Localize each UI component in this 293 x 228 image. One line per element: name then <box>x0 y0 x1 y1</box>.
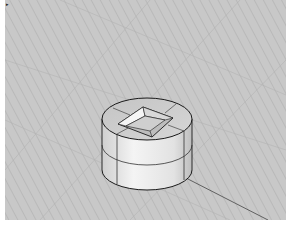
cylinder-object[interactable] <box>102 98 192 190</box>
viewport-canvas[interactable] <box>5 0 286 220</box>
viewport-menu-arrow-icon[interactable]: ▸ <box>6 1 9 7</box>
perspective-viewport[interactable]: ▸ <box>5 0 286 220</box>
viewport-title[interactable]: ▸ <box>6 1 9 7</box>
